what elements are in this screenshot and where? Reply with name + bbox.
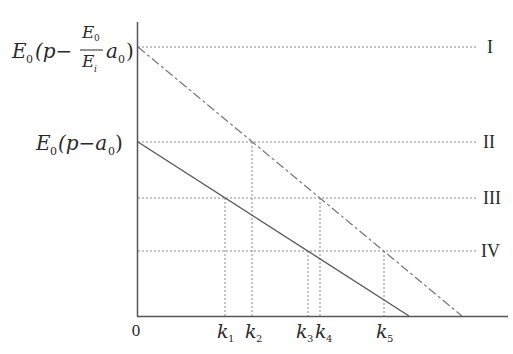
- diagram: 0 E 0 (p− E 0 E i a 0 ) E 0 (p−a 0 ) I I…: [0, 0, 513, 354]
- k5-label: k: [376, 320, 388, 342]
- label-II-a-sub: 0: [108, 145, 115, 158]
- label-I-frac-den-sub: i: [94, 64, 97, 74]
- origin-label: 0: [132, 321, 141, 340]
- k2-label: k: [245, 320, 257, 342]
- y-label-level-I: E 0 (p− E 0 E i a 0 ): [11, 22, 134, 74]
- k1-label: k: [217, 320, 229, 342]
- dash-dot-line: [138, 47, 462, 316]
- k4-sub: 4: [326, 333, 332, 344]
- label-I-E: E: [11, 39, 27, 63]
- k2-sub: 2: [256, 333, 262, 344]
- label-I-frac-den: E: [81, 51, 95, 71]
- label-I-frac-num: E: [81, 22, 95, 42]
- k1-sub: 1: [228, 333, 234, 344]
- vertical-guides: [225, 142, 384, 316]
- label-I-E-sub: 0: [26, 53, 33, 66]
- k3-sub: 3: [307, 333, 313, 344]
- label-II-body: (p−a: [58, 131, 107, 155]
- solid-line: [138, 142, 409, 316]
- level-labels: I II III IV: [481, 37, 501, 261]
- label-I-a: a: [106, 39, 118, 63]
- y-label-level-II: E 0 (p−a 0 ): [35, 131, 123, 158]
- level-label-IV: IV: [481, 241, 500, 261]
- level-label-III: III: [483, 188, 501, 208]
- label-II-E-sub: 0: [50, 145, 57, 158]
- label-II-E: E: [35, 131, 51, 155]
- k3-label: k: [296, 320, 308, 342]
- label-I-open: (p−: [35, 39, 72, 63]
- label-I-a-sub: 0: [118, 53, 125, 66]
- k4-label: k: [315, 320, 327, 342]
- k-labels: k 1 k 2 k 3 k 4 k 5: [217, 320, 393, 344]
- label-I-frac-num-sub: 0: [94, 33, 100, 43]
- k5-sub: 5: [387, 333, 393, 344]
- label-I-close: ): [126, 39, 134, 63]
- level-label-II: II: [483, 132, 495, 152]
- horizontal-guides: [138, 47, 477, 251]
- level-label-I: I: [487, 37, 493, 57]
- label-II-close: ): [115, 131, 123, 155]
